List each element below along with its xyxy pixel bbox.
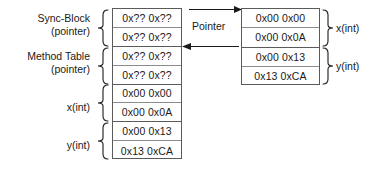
label-sync-block-line1: Sync-Block bbox=[37, 12, 90, 24]
label-y-int-right: y(int) bbox=[336, 60, 359, 72]
memory-cell: 0x00 0x13 bbox=[113, 122, 181, 141]
brace-y-int-left-icon bbox=[94, 122, 109, 160]
brace-x-int-left-icon bbox=[94, 84, 109, 122]
label-pointer: Pointer bbox=[192, 20, 225, 32]
memory-cell: 0x00 0x0A bbox=[242, 28, 319, 47]
memory-cell: 0x?? 0x?? bbox=[113, 28, 181, 47]
label-sync-block-line2: (pointer) bbox=[8, 25, 90, 38]
brace-sync-block-icon bbox=[94, 9, 109, 47]
label-x-int-left: x(int) bbox=[30, 101, 90, 114]
memory-cell: 0x00 0x00 bbox=[242, 9, 319, 28]
memory-cell: 0x?? 0x?? bbox=[113, 66, 181, 85]
brace-method-table-icon bbox=[94, 47, 109, 85]
memory-cell: 0x00 0x13 bbox=[242, 48, 319, 67]
pointer-arrow-to-right bbox=[188, 4, 244, 15]
left-memory-table: 0x?? 0x?? 0x?? 0x?? 0x?? 0x?? 0x?? 0x?? … bbox=[112, 8, 182, 159]
brace-x-int-right-icon bbox=[322, 9, 335, 47]
memory-cell: 0x?? 0x?? bbox=[113, 47, 181, 66]
label-method-table-line1: Method Table bbox=[27, 50, 90, 62]
label-y-int-left: y(int) bbox=[30, 139, 90, 152]
label-sync-block: Sync-Block (pointer) bbox=[8, 12, 90, 37]
memory-layout-diagram: 0x?? 0x?? 0x?? 0x?? 0x?? 0x?? 0x?? 0x?? … bbox=[0, 0, 374, 169]
label-method-table-line2: (pointer) bbox=[2, 63, 90, 76]
right-memory-table: 0x00 0x00 0x00 0x0A 0x00 0x13 0x13 0xCA bbox=[241, 8, 320, 85]
memory-cell: 0x13 0xCA bbox=[113, 141, 181, 160]
memory-cell: 0x00 0x00 bbox=[113, 85, 181, 104]
pointer-arrow-to-left bbox=[180, 41, 240, 52]
memory-cell: 0x00 0x0A bbox=[113, 103, 181, 122]
label-x-int-right: x(int) bbox=[336, 22, 359, 34]
label-method-table: Method Table (pointer) bbox=[2, 50, 90, 75]
memory-cell: 0x13 0xCA bbox=[242, 67, 319, 86]
memory-cell: 0x?? 0x?? bbox=[113, 9, 181, 28]
brace-y-int-right-icon bbox=[322, 47, 335, 85]
